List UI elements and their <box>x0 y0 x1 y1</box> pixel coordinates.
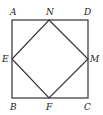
label-a: A <box>9 7 17 17</box>
label-f: F <box>45 102 53 112</box>
quadrilateral-enmf <box>12 20 88 98</box>
geometry-diagram: A N D E M B F C <box>0 0 103 115</box>
square-abcd <box>12 20 88 98</box>
label-b: B <box>9 102 17 112</box>
label-n: N <box>45 7 55 17</box>
label-c: C <box>84 102 91 112</box>
label-m: M <box>89 54 100 64</box>
label-d: D <box>83 7 91 17</box>
label-e: E <box>1 54 9 64</box>
